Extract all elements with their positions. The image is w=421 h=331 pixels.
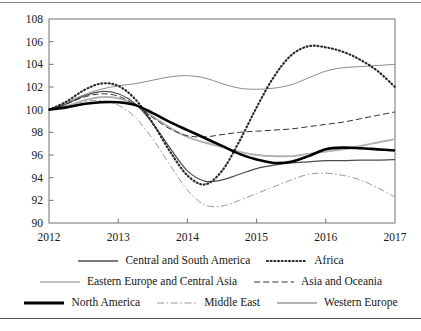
legend-entry-asia-and-oceania[interactable]: Asia and Oceania xyxy=(253,276,382,288)
series-line-africa xyxy=(49,46,395,185)
legend-label-north-america: North America xyxy=(71,297,140,309)
legend-entry-middle-east[interactable]: Middle East xyxy=(156,297,260,309)
bottom-divider-rule xyxy=(0,318,421,319)
y-axis-tick-label: 98 xyxy=(32,126,44,138)
top-divider-rule xyxy=(0,2,421,3)
legend-entry-central-and-south-america[interactable]: Central and South America xyxy=(77,255,250,267)
legend-label-western-europe: Western Europe xyxy=(324,297,397,309)
x-axis-tick-label: 2012 xyxy=(38,231,61,243)
legend-swatch-eastern-europe-and-central-asia xyxy=(39,277,81,287)
legend-label-africa: Africa xyxy=(314,255,343,267)
y-axis-tick-label: 90 xyxy=(32,217,44,229)
series-line-middle-east xyxy=(49,100,395,206)
legend-swatch-north-america xyxy=(23,298,65,308)
y-axis-tick-label: 104 xyxy=(26,58,44,70)
legend-entry-africa[interactable]: Africa xyxy=(266,255,343,267)
figure-container: 9092949698100102104106108201220132014201… xyxy=(0,0,421,331)
legend-entry-eastern-europe-and-central-asia[interactable]: Eastern Europe and Central Asia xyxy=(39,276,237,288)
legend-swatch-central-and-south-america xyxy=(77,256,119,266)
y-axis-tick-label: 108 xyxy=(26,13,44,25)
y-axis-tick-label: 92 xyxy=(32,194,44,206)
x-axis-tick-label: 2014 xyxy=(176,231,199,243)
legend-label-eastern-europe-and-central-asia: Eastern Europe and Central Asia xyxy=(87,276,237,288)
chart-plot-area: 9092949698100102104106108201220132014201… xyxy=(0,8,421,248)
legend-row: Central and South AmericaAfrica xyxy=(0,250,421,271)
series-line-north-america xyxy=(49,102,395,163)
series-line-central-and-south-america xyxy=(49,91,395,181)
x-axis-tick-label: 2017 xyxy=(384,231,407,243)
chart-legend: Central and South AmericaAfricaEastern E… xyxy=(0,250,421,318)
x-axis-tick-label: 2016 xyxy=(314,231,337,243)
legend-row: North AmericaMiddle EastWestern Europe xyxy=(0,292,421,313)
plot-frame xyxy=(49,19,395,223)
y-axis-tick-label: 102 xyxy=(26,81,44,93)
series-line-asia-and-oceania xyxy=(49,94,395,137)
x-axis-tick-label: 2015 xyxy=(245,231,268,243)
legend-label-middle-east: Middle East xyxy=(204,297,260,309)
y-axis-tick-label: 94 xyxy=(32,172,44,184)
legend-label-asia-and-oceania: Asia and Oceania xyxy=(301,276,382,288)
legend-swatch-middle-east xyxy=(156,298,198,308)
legend-entry-western-europe[interactable]: Western Europe xyxy=(276,297,397,309)
legend-label-central-and-south-america: Central and South America xyxy=(125,255,250,267)
y-axis-tick-label: 106 xyxy=(26,36,44,48)
y-axis-tick-label: 100 xyxy=(26,104,44,116)
legend-entry-north-america[interactable]: North America xyxy=(23,297,140,309)
line-chart-svg: 9092949698100102104106108201220132014201… xyxy=(0,8,421,248)
legend-swatch-asia-and-oceania xyxy=(253,277,295,287)
y-axis-tick-label: 96 xyxy=(32,149,44,161)
legend-row: Eastern Europe and Central AsiaAsia and … xyxy=(0,271,421,292)
legend-swatch-africa xyxy=(266,256,308,266)
legend-swatch-western-europe xyxy=(276,298,318,308)
x-axis-tick-label: 2013 xyxy=(107,231,130,243)
